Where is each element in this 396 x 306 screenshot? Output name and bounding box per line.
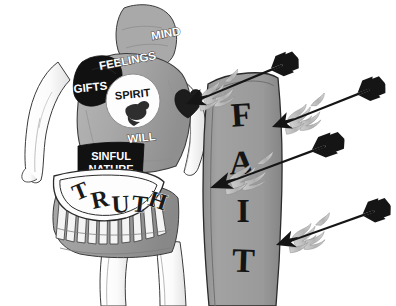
svg-text:F: F [230,95,253,133]
sinful-nature-line1: SINFUL [91,150,131,162]
svg-text:U: U [111,190,130,218]
spiritual-armor-illustration: SINFUL NATURE [0,0,396,306]
spirit-emblem [106,74,160,128]
svg-text:I: I [236,192,249,229]
illustration-canvas: SINFUL NATURE [0,0,396,306]
svg-text:T: T [231,242,255,280]
